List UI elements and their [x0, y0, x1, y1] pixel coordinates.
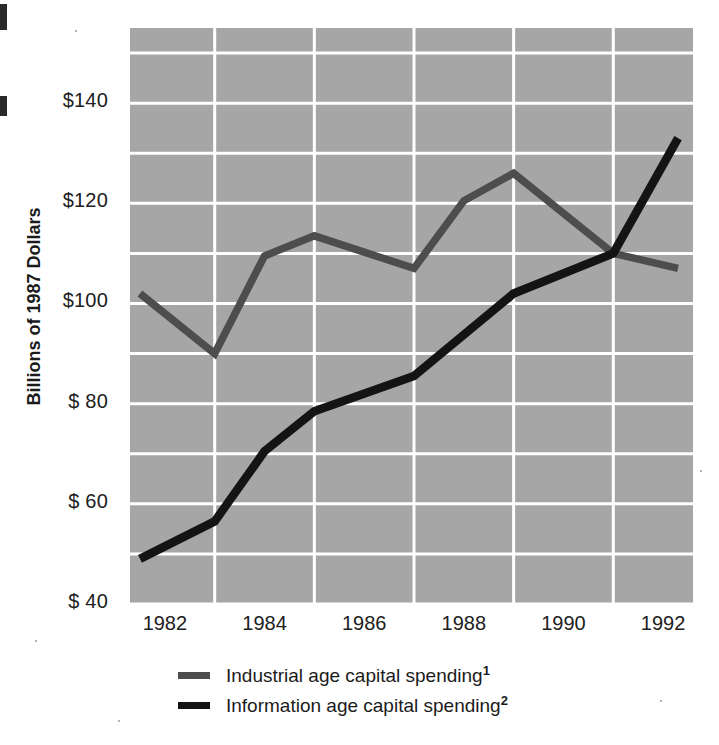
y-tick-label: $ 60: [12, 490, 130, 513]
x-tick-label: 1988: [442, 612, 487, 635]
scan-speck: [660, 700, 662, 702]
scan-speck: [75, 30, 77, 32]
x-axis-tick-labels: 198219841986198819901992: [0, 612, 719, 644]
legend-footnote-marker: 1: [483, 663, 490, 678]
x-tick-label: 1992: [641, 612, 686, 635]
x-tick-label: 1984: [242, 612, 287, 635]
plot-svg: [130, 28, 693, 604]
scan-speck: [35, 640, 37, 642]
y-tick-label-text: $140: [12, 89, 120, 112]
scan-speck: [700, 470, 702, 472]
x-tick-label: 1990: [541, 612, 586, 635]
y-tick-label-text: $ 40: [12, 590, 120, 613]
y-axis-title: Billions of 1987 Dollars: [24, 177, 45, 437]
y-tick-label: $140: [12, 89, 130, 112]
legend-label-industrial: Industrial age capital spending1: [226, 663, 490, 687]
y-tick-label: $ 40: [12, 590, 130, 613]
legend-swatch-information: [178, 702, 210, 709]
chart-figure: $ 40$ 60$ 80$100$120$140 198219841986198…: [0, 0, 719, 745]
legend-label-information: Information age capital spending2: [226, 693, 508, 717]
chart-legend: Industrial age capital spending1 Informa…: [178, 660, 648, 720]
legend-footnote-marker: 2: [501, 693, 508, 708]
scan-speck: [118, 720, 120, 722]
y-tick-label-text: $ 60: [12, 490, 120, 513]
plot-area: [130, 28, 693, 604]
legend-item-industrial: Industrial age capital spending1: [178, 660, 648, 690]
legend-item-information: Information age capital spending2: [178, 690, 648, 720]
legend-swatch-industrial: [178, 672, 210, 679]
data-series: [140, 138, 678, 559]
x-tick-label: 1982: [143, 612, 188, 635]
x-tick-label: 1986: [342, 612, 387, 635]
